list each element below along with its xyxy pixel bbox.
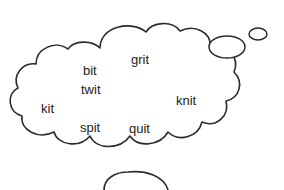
word-knit: knit: [176, 94, 196, 107]
word-grit: grit: [131, 53, 149, 66]
word-quit: quit: [129, 122, 150, 135]
word-twit: twit: [81, 83, 101, 96]
word-bit: bit: [83, 64, 97, 77]
word-kit: kit: [41, 102, 54, 115]
word-spit: spit: [80, 121, 100, 134]
word-list: grit bit twit kit knit spit quit: [0, 0, 284, 190]
illustration-canvas: grit bit twit kit knit spit quit: [0, 0, 284, 190]
